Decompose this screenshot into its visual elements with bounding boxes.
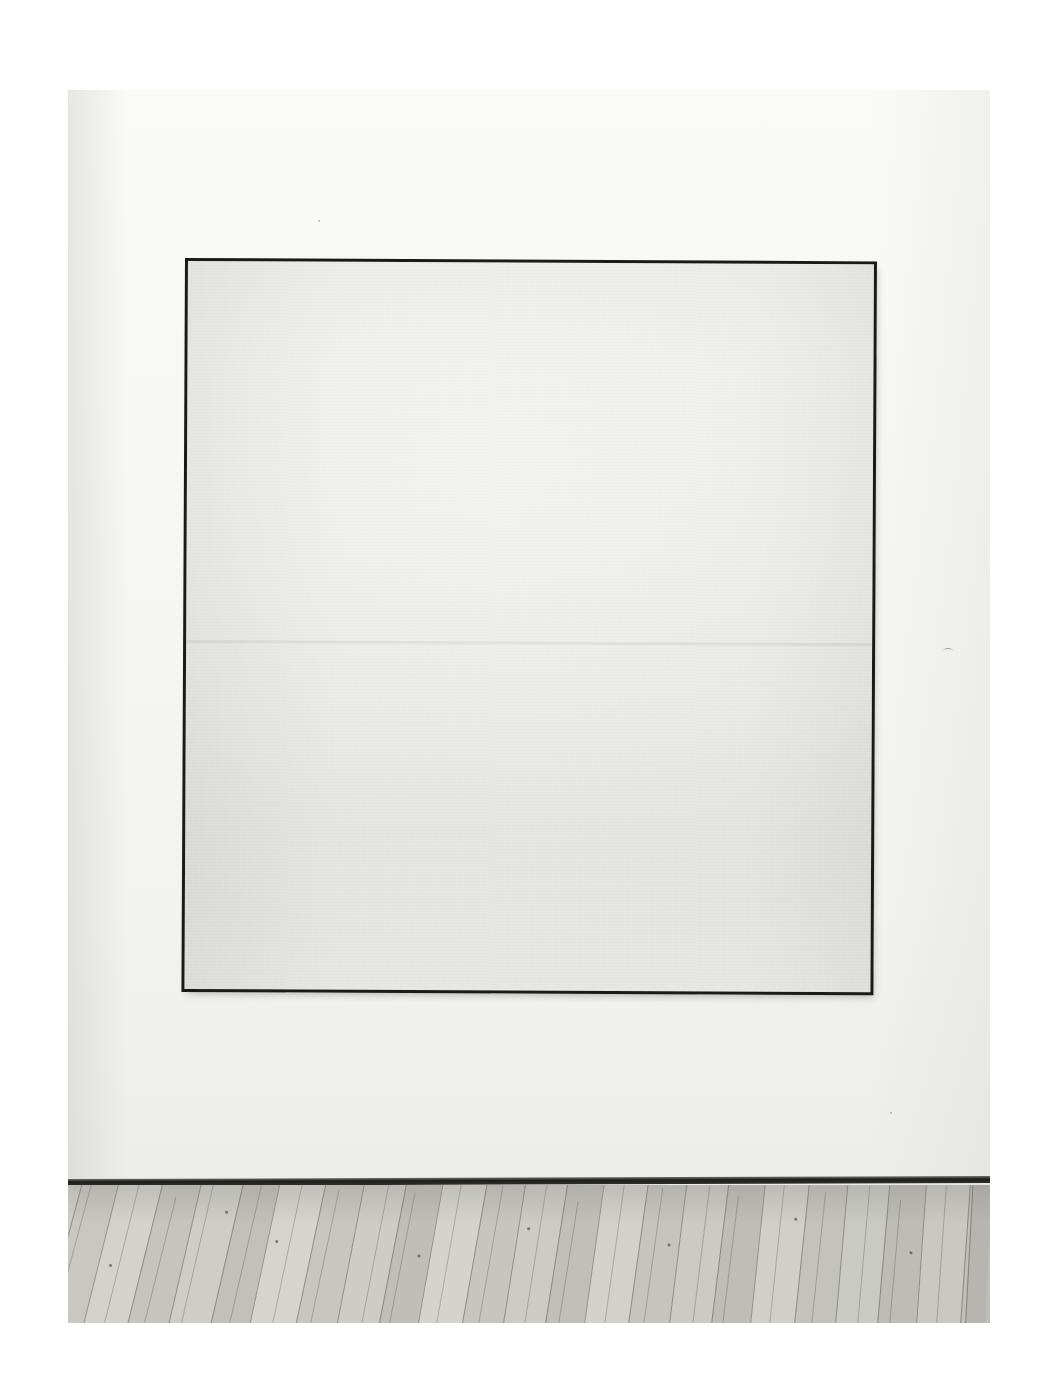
wall-left-shading bbox=[68, 90, 128, 1185]
canvas-horizontal-band bbox=[186, 640, 872, 646]
wall-speck bbox=[318, 220, 320, 222]
wall-right-shading bbox=[870, 90, 990, 1185]
printed-page bbox=[0, 0, 1044, 1390]
canvas-light-falloff bbox=[184, 261, 874, 992]
wall-scuff-mark bbox=[943, 648, 953, 654]
canvas-weave-texture bbox=[184, 261, 874, 992]
monochrome-painting[interactable] bbox=[181, 258, 877, 995]
gallery-installation-photograph bbox=[68, 90, 990, 1323]
wooden-plank-floor bbox=[68, 1185, 990, 1323]
wall-speck bbox=[890, 1112, 892, 1114]
